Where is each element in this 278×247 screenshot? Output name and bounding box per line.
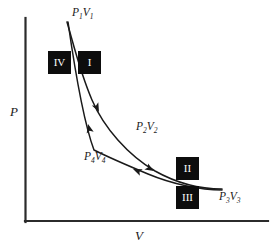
state-1-v-sub: 1 bbox=[90, 12, 94, 21]
process-box-iii-label: III bbox=[182, 192, 193, 203]
state-1-v: V bbox=[83, 6, 90, 18]
process-box-iv: IV bbox=[48, 51, 71, 74]
process-box-i: I bbox=[78, 51, 101, 74]
state-1-p: P bbox=[72, 6, 79, 18]
state-3-p: P bbox=[219, 190, 226, 202]
state-3-v-sub: 3 bbox=[237, 196, 241, 205]
state-label-4: P4V4 bbox=[84, 150, 106, 162]
process-box-i-label: I bbox=[88, 57, 92, 68]
process-box-ii: II bbox=[176, 157, 199, 180]
x-axis-label-text: V bbox=[135, 228, 143, 243]
y-axis-label-text: P bbox=[10, 104, 18, 119]
state-1-p-sub: 1 bbox=[79, 12, 83, 21]
process-box-iv-label: IV bbox=[54, 57, 66, 68]
y-axis-label: P bbox=[10, 104, 18, 120]
state-4-v: V bbox=[95, 150, 102, 162]
state-2-v: V bbox=[147, 120, 154, 132]
state-3-p-sub: 3 bbox=[226, 196, 230, 205]
state-3-v: V bbox=[230, 190, 237, 202]
state-4-p-sub: 4 bbox=[91, 156, 95, 165]
state-2-v-sub: 2 bbox=[154, 126, 158, 135]
x-axis-label: V bbox=[135, 228, 143, 244]
process-box-ii-label: II bbox=[184, 163, 191, 174]
pv-diagram-figure: P V P1V1 P2V2 P3V3 P4V4 IV I II III bbox=[0, 0, 278, 247]
state-4-v-sub: 4 bbox=[102, 156, 106, 165]
state-4-p: P bbox=[84, 150, 91, 162]
state-label-1: P1V1 bbox=[72, 6, 94, 18]
state-label-3: P3V3 bbox=[219, 190, 241, 202]
state-2-p: P bbox=[136, 120, 143, 132]
state-label-2: P2V2 bbox=[136, 120, 158, 132]
state-2-p-sub: 2 bbox=[143, 126, 147, 135]
process-box-iii: III bbox=[176, 186, 199, 209]
